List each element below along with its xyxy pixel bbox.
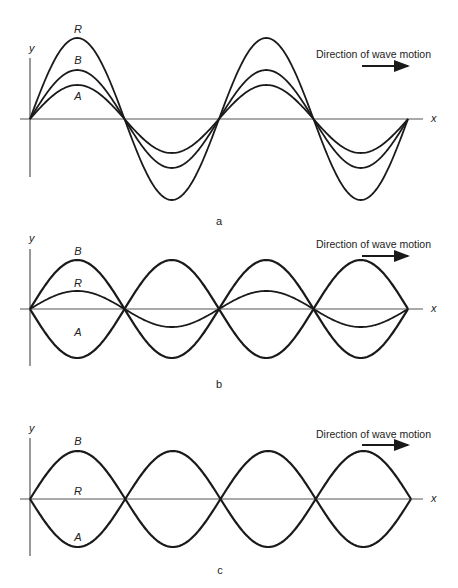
direction-label: Direction of wave motion: [316, 428, 431, 440]
x-axis-label: x: [430, 112, 437, 124]
direction-label: Direction of wave motion: [316, 238, 431, 250]
panel-b: yxBRADirection of wave motionb: [20, 232, 437, 390]
curve-label-A: A: [73, 90, 81, 102]
curve-label-B: B: [74, 435, 81, 447]
y-axis-label: y: [28, 232, 36, 244]
direction-label: Direction of wave motion: [316, 48, 431, 60]
panel-caption: c: [217, 564, 223, 576]
y-axis-label: y: [28, 42, 36, 54]
y-axis-label: y: [28, 422, 36, 434]
curve-label-B: B: [74, 245, 81, 257]
x-axis-label: x: [430, 302, 437, 314]
curve-label-A: A: [73, 326, 81, 338]
panel-a: yxRBADirection of wave motiona: [20, 23, 437, 227]
panel-c: yxBRADirection of wave motionc: [20, 422, 437, 576]
wave-superposition-figure: yxRBADirection of wave motiona yxBRADire…: [0, 0, 458, 588]
curve-label-B: B: [74, 54, 81, 66]
curve-label-R: R: [74, 23, 82, 35]
curve-label-R: R: [74, 277, 82, 289]
curve-label-A: A: [73, 531, 81, 543]
panel-caption: a: [216, 215, 223, 227]
wave-curve-B: [30, 451, 411, 499]
panel-caption: b: [216, 378, 222, 390]
x-axis-label: x: [430, 492, 437, 504]
wave-curve-A: [30, 499, 411, 547]
curve-label-R: R: [74, 485, 82, 497]
